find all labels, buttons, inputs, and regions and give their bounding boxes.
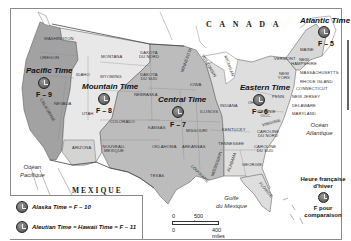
clock-icon-pacific: [38, 77, 50, 89]
scale-bar-graphic: [172, 221, 219, 225]
legend-box: Alaska Time = F – 10 Aleutian Time = Haw…: [10, 195, 143, 239]
clock-icon-eastern: [253, 94, 265, 106]
state-dakota-sud: DAKOTA DU SUD: [138, 73, 160, 81]
legend-row-aleutian: Aleutian Time = Hawaii Time = F – 11: [16, 221, 136, 233]
label-canada: C A N A D A: [206, 20, 281, 29]
state-maine: MAINE: [300, 48, 314, 52]
legend-aleutian: Aleutian Time = Hawaii Time = F – 11: [32, 224, 136, 230]
state-arizona: ARIZONA: [72, 146, 91, 150]
state-indiana: INDIANA: [220, 104, 238, 108]
state-utah: UTAH: [82, 112, 94, 116]
zone-title-pacific: Pacific Time: [26, 67, 73, 75]
french-time-line1: Heure française: [296, 176, 350, 183]
zone-offset-mountain: F – 8: [96, 107, 112, 114]
zone-offset-central: F – 7: [170, 121, 186, 128]
state-idaho: IDAHO: [76, 73, 90, 77]
label-mexico: MEXIQUE: [72, 186, 123, 195]
state-montana: MONTANA: [101, 55, 122, 59]
scale-zero-km: 0: [172, 213, 175, 219]
state-oregon: OREGON: [40, 56, 59, 60]
state-new-york: NEW YORK: [276, 72, 292, 80]
clock-icon-mountain: [98, 93, 110, 105]
state-caroline-nord: CAROLINE DU NORD: [256, 130, 280, 138]
state-iowa: IOWA: [190, 83, 201, 87]
zone-offset-atlantic: F – 5: [318, 40, 334, 47]
state-rhode-island: RHODE ISLAND: [300, 80, 333, 84]
zone-title-eastern: Eastern Time: [240, 84, 290, 92]
state-tennessee: TENNESSEE: [218, 142, 244, 146]
state-nebraska: NEBRASKA: [134, 93, 158, 97]
state-kentucky: KENTUCKY: [222, 128, 246, 132]
state-illinois: ILLINOIS: [200, 110, 218, 114]
clock-icon-alaska: [16, 201, 28, 213]
zone-offset-pacific: F – 9: [36, 91, 52, 98]
state-delaware: DELAWARE: [292, 104, 316, 108]
state-colorado: COLORADO: [110, 120, 135, 124]
scale-zero-miles: 0: [172, 227, 175, 233]
label-atlantic-ocean: Océan Atlantique: [306, 122, 333, 138]
arizona-region: [62, 140, 96, 165]
french-time-line2: d'hiver: [296, 183, 350, 190]
state-new-jersey: NEW JERSEY: [292, 95, 320, 99]
state-massachusetts: MASSACHUSETTS: [300, 71, 339, 75]
state-connecticut: CONNECTICUT: [296, 87, 328, 91]
state-oklahoma: OKLAHOMA: [152, 145, 177, 149]
zone-title-atlantic: Atlantic Time: [300, 17, 350, 25]
zone-title-mountain: Mountain Time: [82, 83, 138, 91]
zone-title-central: Central Time: [158, 96, 206, 104]
french-time-line4: comparaison: [296, 212, 350, 219]
state-washington: WASHINGTON: [44, 37, 74, 41]
clock-icon-central: [172, 106, 184, 118]
clock-icon-atlantic: [318, 26, 330, 38]
state-georgie: GEORGIE: [242, 163, 262, 167]
label-pacific-ocean: Océan Pacifique: [20, 164, 45, 180]
state-caroline-sud: CAROLINE DU SUD: [254, 145, 276, 153]
zone-offset-eastern: F – 6: [252, 108, 268, 115]
scale-miles: 400 miles: [212, 227, 225, 239]
legend-alaska: Alaska Time = F – 10: [32, 204, 91, 210]
state-wyoming: WYOMING: [100, 75, 122, 79]
french-time-line3: F pour: [296, 205, 350, 212]
state-texas: TEXAS: [150, 174, 164, 178]
clock-icon-france: [318, 192, 329, 203]
state-kansas: KANSAS: [148, 126, 166, 130]
state-missouri: MISSOURI: [186, 129, 208, 133]
state-dakota-nord: DAKOTA DU NORD: [138, 51, 160, 59]
label-gulf-mexico: Golfe du Mexique: [216, 195, 247, 211]
state-penn: PENN.: [272, 95, 285, 99]
state-arkansas: ARKANSAS: [182, 145, 206, 149]
clock-icon-aleutian: [16, 221, 28, 233]
state-new-hampshire: NEW HAMPSHIRE: [290, 58, 318, 66]
hudson-coast: [160, 12, 206, 48]
state-nouveau-mexique: NOUVEAU- MEXIQUE: [100, 145, 128, 153]
legend-row-alaska: Alaska Time = F – 10: [16, 201, 91, 213]
state-nevada: NEVADA: [54, 102, 72, 106]
french-time-note: Heure française d'hiver F pour comparais…: [296, 176, 350, 219]
state-maryland: MARYLAND: [292, 112, 316, 116]
